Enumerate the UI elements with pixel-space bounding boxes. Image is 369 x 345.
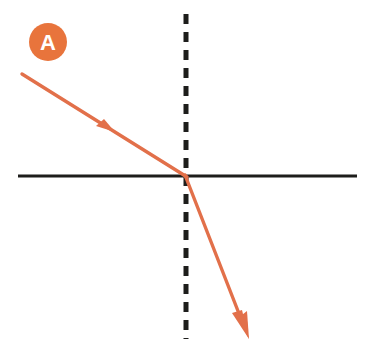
refraction-diagram-figure: A: [0, 0, 369, 345]
label-badge-letter: A: [40, 30, 56, 55]
diagram-canvas: A: [0, 0, 369, 345]
refracted-ray-line: [185, 175, 245, 329]
